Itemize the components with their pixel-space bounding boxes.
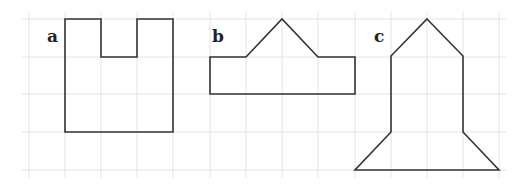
shape-a (65, 19, 173, 132)
label-a: a (47, 28, 58, 45)
shapes (0, 0, 529, 185)
shape-b (210, 19, 355, 94)
label-b: b (212, 28, 224, 45)
diagram-canvas: a b c (0, 0, 529, 185)
label-c: c (374, 28, 384, 45)
